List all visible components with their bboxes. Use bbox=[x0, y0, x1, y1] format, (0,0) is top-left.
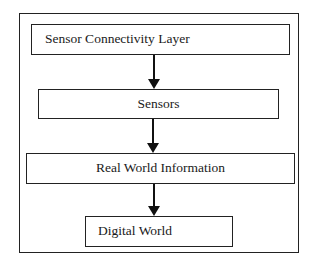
arrow-down-icon bbox=[148, 184, 160, 216]
arrow-down-icon bbox=[147, 119, 159, 153]
edges-layer bbox=[0, 0, 315, 267]
arrow-down-icon bbox=[148, 55, 160, 89]
